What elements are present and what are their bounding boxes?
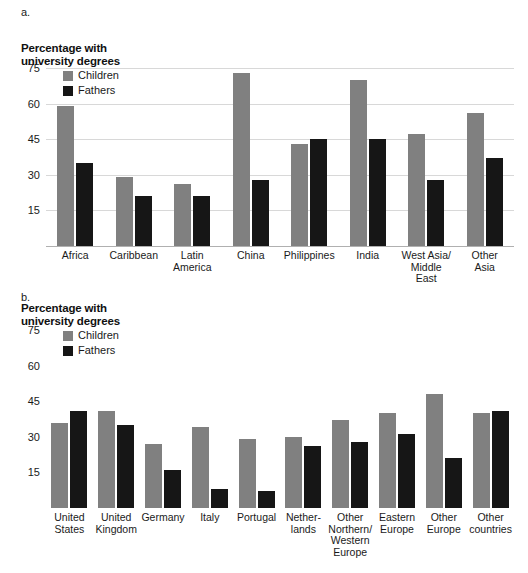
- x-tick-label-line: America: [156, 262, 229, 274]
- bar-fathers: [76, 163, 93, 246]
- bar-children: [57, 106, 74, 246]
- x-tick-label-line: Other: [449, 250, 522, 262]
- bar-fathers: [252, 180, 269, 246]
- bar-children: [467, 113, 484, 246]
- bar-group: [285, 330, 321, 508]
- y-tick-label-75: 75: [14, 63, 40, 74]
- bar-fathers: [70, 411, 87, 508]
- bar-fathers: [427, 180, 444, 246]
- bar-children: [51, 423, 68, 508]
- bar-fathers: [135, 196, 152, 246]
- y-tick-label-75: 75: [14, 325, 40, 336]
- bar-fathers: [351, 442, 368, 508]
- bar-fathers: [258, 491, 275, 508]
- bar-children: [408, 134, 425, 246]
- bar-children: [145, 444, 162, 508]
- y-tick-label-15: 15: [14, 467, 40, 478]
- y-tick-label-15: 15: [14, 205, 40, 216]
- bar-fathers: [492, 411, 509, 508]
- x-tick-label-line: East: [390, 273, 463, 285]
- bar-group: [239, 330, 275, 508]
- bar-children: [233, 73, 250, 246]
- y-tick-label-30: 30: [14, 170, 40, 181]
- bar-group: [233, 68, 269, 246]
- bar-children: [285, 437, 302, 508]
- bar-fathers: [304, 446, 321, 508]
- bar-group: [426, 330, 462, 508]
- bar-group: [473, 330, 509, 508]
- bar-fathers: [164, 470, 181, 508]
- bar-group: [350, 68, 386, 246]
- bar-group: [291, 68, 327, 246]
- bar-children: [291, 144, 308, 246]
- x-axis-baseline: [46, 246, 514, 247]
- bar-children: [332, 420, 349, 508]
- bar-children: [98, 411, 115, 508]
- bar-children: [174, 184, 191, 246]
- bar-group: [174, 68, 210, 246]
- y-tick-label-45: 45: [14, 134, 40, 145]
- x-tick-label-line: Western: [320, 535, 381, 547]
- x-tick-label: Othercountries: [460, 512, 521, 535]
- y-tick-label-60: 60: [14, 99, 40, 110]
- bar-fathers: [310, 139, 327, 246]
- bar-children: [473, 413, 490, 508]
- bar-fathers: [211, 489, 228, 508]
- bar-fathers: [445, 458, 462, 508]
- bar-children: [239, 439, 256, 508]
- bar-group: [379, 330, 415, 508]
- bar-children: [116, 177, 133, 246]
- x-tick-label-line: Other: [460, 512, 521, 524]
- bar-fathers: [486, 158, 503, 246]
- panel-a-bars: [46, 68, 514, 246]
- y-tick-label-60: 60: [14, 361, 40, 372]
- bar-children: [379, 413, 396, 508]
- bar-children: [426, 394, 443, 508]
- bar-group: [98, 330, 134, 508]
- x-tick-label-line: Asia: [449, 262, 522, 274]
- panel-b-axis-title-line1: Percentage with: [21, 302, 107, 314]
- bar-fathers: [193, 196, 210, 246]
- y-tick-label-45: 45: [14, 396, 40, 407]
- bar-group: [51, 330, 87, 508]
- panel-a-axis-title-line1: Percentage with: [21, 42, 107, 54]
- bar-fathers: [117, 425, 134, 508]
- bar-children: [192, 427, 209, 508]
- bar-fathers: [369, 139, 386, 246]
- panel-a-letter: a.: [21, 6, 30, 18]
- x-tick-label: OtherAsia: [449, 250, 522, 273]
- panel-b-bars: [46, 330, 514, 508]
- bar-group: [467, 68, 503, 246]
- bar-group: [192, 330, 228, 508]
- bar-group: [145, 330, 181, 508]
- bar-fathers: [398, 434, 415, 508]
- x-tick-label-line: Kingdom: [86, 524, 147, 536]
- bar-group: [116, 68, 152, 246]
- bar-group: [332, 330, 368, 508]
- bar-group: [408, 68, 444, 246]
- bar-children: [350, 80, 367, 246]
- chart-panel-a: a. Percentage with university degrees 75…: [0, 0, 528, 288]
- y-tick-label-30: 30: [14, 432, 40, 443]
- chart-panel-b: b. Percentage with university degrees 75…: [0, 285, 528, 573]
- x-tick-label-line: Europe: [320, 547, 381, 559]
- bar-group: [57, 68, 93, 246]
- x-tick-label-line: countries: [460, 524, 521, 536]
